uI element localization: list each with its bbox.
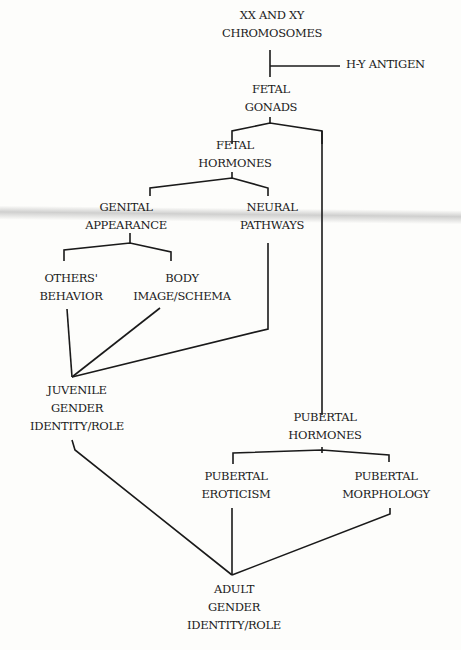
node-fetal-hormones: FETAL HORMONES	[198, 136, 271, 172]
edge-juvenile-adult	[72, 440, 232, 575]
node-adult-gender: ADULT GENDER IDENTITY/ROLE	[187, 580, 281, 634]
node-line: GENDER	[187, 598, 281, 616]
node-line: IDENTITY/ROLE	[30, 417, 124, 435]
node-line: PUBERTAL	[288, 408, 361, 426]
edge-hormones-fork	[150, 178, 268, 196]
node-line: GONADS	[245, 98, 297, 116]
node-hy-antigen: H-Y ANTIGEN	[346, 57, 425, 71]
node-line: BODY	[133, 269, 231, 287]
edge-morphology-adult	[232, 508, 390, 575]
node-line: GENITAL	[85, 198, 167, 216]
edge-genital-fork	[64, 243, 171, 261]
node-line: IMAGE/SCHEMA	[133, 287, 231, 305]
node-line: XX AND XY	[222, 6, 322, 24]
node-others-behavior: OTHERS' BEHAVIOR	[39, 269, 102, 305]
node-line: PUBERTAL	[342, 467, 430, 485]
node-line: CHROMOSOMES	[222, 24, 322, 42]
node-line: EROTICISM	[202, 485, 271, 503]
edge-others-juvenile	[67, 309, 72, 377]
node-line: PATHWAYS	[240, 216, 304, 234]
node-line: APPEARANCE	[85, 216, 167, 234]
node-neural-pathways: NEURAL PATHWAYS	[240, 198, 304, 234]
node-line: FETAL	[245, 80, 297, 98]
node-genital-appearance: GENITAL APPEARANCE	[85, 198, 167, 234]
node-line: ADULT	[187, 580, 281, 598]
node-line: HORMONES	[288, 426, 361, 444]
node-line: HORMONES	[198, 154, 271, 172]
node-line: PUBERTAL	[202, 467, 271, 485]
node-line: GENDER	[30, 399, 124, 417]
node-juvenile-gender: JUVENILE GENDER IDENTITY/ROLE	[30, 381, 124, 435]
node-line: IDENTITY/ROLE	[187, 616, 281, 634]
node-pubertal-hormones: PUBERTAL HORMONES	[288, 408, 361, 444]
node-line: MORPHOLOGY	[342, 485, 430, 503]
node-line: NEURAL	[240, 198, 304, 216]
node-pubertal-eroticism: PUBERTAL EROTICISM	[202, 467, 271, 503]
node-line: FETAL	[198, 136, 271, 154]
node-body-image: BODY IMAGE/SCHEMA	[133, 269, 231, 305]
node-line: JUVENILE	[30, 381, 124, 399]
node-chromosomes: XX AND XY CHROMOSOMES	[222, 6, 322, 42]
node-pubertal-morphology: PUBERTAL MORPHOLOGY	[342, 467, 430, 503]
connector-lines	[0, 0, 461, 650]
edge-pubhormones-fork	[233, 450, 389, 464]
edge-neural-juvenile	[72, 243, 268, 377]
node-line: OTHERS'	[39, 269, 102, 287]
node-fetal-gonads: FETAL GONADS	[245, 80, 297, 116]
node-line: BEHAVIOR	[39, 287, 102, 305]
